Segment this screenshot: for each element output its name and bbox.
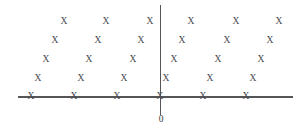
- data-point-marker: X: [130, 54, 137, 64]
- data-point-marker: X: [215, 54, 222, 64]
- data-point-marker: X: [267, 35, 274, 45]
- data-point-marker: X: [233, 16, 240, 26]
- data-point-marker: X: [207, 73, 214, 83]
- data-point-marker: X: [114, 91, 121, 101]
- data-point-marker: X: [250, 73, 257, 83]
- data-point-marker: X: [157, 91, 164, 101]
- data-point-marker: X: [200, 91, 207, 101]
- plot-canvas: XXXXXXXXXXXXXXXXXXXXXXXXXXXXXX 0: [0, 0, 307, 129]
- data-point-marker: X: [243, 91, 250, 101]
- data-point-marker: X: [28, 91, 35, 101]
- origin-label: 0: [159, 114, 164, 124]
- data-point-marker: X: [138, 35, 145, 45]
- data-point-marker: X: [61, 16, 68, 26]
- data-point-marker: X: [78, 73, 85, 83]
- data-point-marker: X: [276, 16, 283, 26]
- data-point-marker: X: [224, 35, 231, 45]
- data-point-marker: X: [121, 73, 128, 83]
- data-point-marker: X: [147, 16, 154, 26]
- data-point-marker: X: [103, 16, 110, 26]
- data-point-marker: X: [43, 54, 50, 64]
- data-point-marker: X: [86, 54, 93, 64]
- data-point-marker: X: [95, 35, 102, 45]
- data-point-marker: X: [163, 73, 170, 83]
- data-point-marker: X: [179, 35, 186, 45]
- marker-layer: XXXXXXXXXXXXXXXXXXXXXXXXXXXXXX: [28, 16, 283, 101]
- data-point-marker: X: [171, 54, 178, 64]
- data-point-marker: X: [35, 73, 42, 83]
- data-point-marker: X: [258, 54, 265, 64]
- lattice-plot-figure: XXXXXXXXXXXXXXXXXXXXXXXXXXXXXX 0: [0, 0, 307, 129]
- data-point-marker: X: [71, 91, 78, 101]
- data-point-marker: X: [52, 35, 59, 45]
- data-point-marker: X: [188, 16, 195, 26]
